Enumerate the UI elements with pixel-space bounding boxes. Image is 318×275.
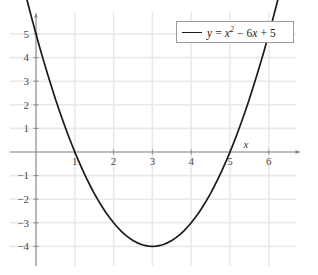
y-tick-label: −1 — [17, 169, 29, 181]
gridlines — [10, 12, 296, 266]
axis-labels: x — [243, 138, 249, 150]
chart-container: 12345654321−1−2−3−4 x y = x2 − 6x + 5 — [0, 0, 318, 275]
legend-eq-equals: = — [215, 27, 222, 39]
x-tick-label: 6 — [266, 155, 272, 167]
axes — [10, 13, 300, 266]
legend-eq-x2: x — [252, 27, 257, 39]
x-axis-name: x — [243, 138, 249, 150]
legend-eq-minus: − — [237, 27, 244, 39]
legend-eq-exponent: 2 — [230, 25, 234, 34]
tick-marks — [34, 34, 269, 246]
x-axis-arrowhead — [296, 150, 301, 154]
legend-eq-y: y — [207, 27, 212, 39]
legend-equation-label: y = x2 − 6x + 5 — [207, 25, 276, 39]
y-tick-label: −4 — [17, 240, 29, 252]
y-tick-label: 5 — [24, 28, 30, 40]
legend-line-swatch — [182, 32, 202, 33]
legend-eq-plus: + — [260, 27, 267, 39]
y-tick-label: 4 — [24, 51, 30, 63]
y-tick-label: −3 — [17, 217, 29, 229]
legend-eq-five: 5 — [270, 27, 276, 39]
y-tick-label: −2 — [17, 193, 29, 205]
x-tick-label: 3 — [150, 155, 156, 167]
y-tick-label: 1 — [24, 122, 30, 134]
y-axis-arrowhead — [34, 13, 38, 18]
tick-labels: 12345654321−1−2−3−4 — [17, 28, 272, 252]
x-tick-label: 2 — [111, 155, 117, 167]
y-tick-label: 2 — [24, 99, 30, 111]
y-tick-label: 3 — [24, 75, 30, 87]
x-tick-label: 4 — [188, 155, 194, 167]
legend-box: y = x2 − 6x + 5 — [176, 21, 294, 43]
